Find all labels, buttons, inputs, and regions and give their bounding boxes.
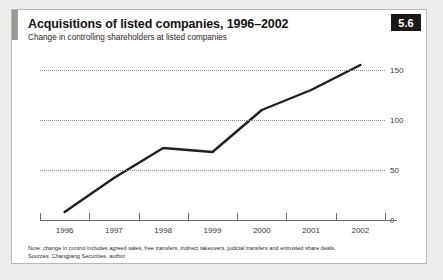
x-tick-1 [89,213,90,220]
x-tick-4 [237,213,238,220]
x-tick-2 [139,213,140,220]
x-tick-label-1996: 1996 [56,226,74,235]
chart-plot-area [40,53,385,220]
y-tick-label-100: 100 [390,116,403,125]
x-tick-5 [286,213,287,220]
figure-card: Acquisitions of listed companies, 1996–2… [11,9,427,264]
x-tick-3 [188,213,189,220]
x-tick-label-1998: 1998 [154,226,172,235]
data-line [65,65,361,212]
figure-number-badge: 5.6 [391,14,421,31]
gridline-100 [40,120,385,121]
x-tick-0 [40,213,41,220]
x-axis-line [40,220,397,221]
x-tick-label-2002: 2002 [351,226,369,235]
line-series-svg [40,53,385,220]
page-title: Acquisitions of listed companies, 1996–2… [28,17,288,31]
title-accent-bar [12,10,18,40]
x-tick-label-1999: 1999 [204,226,222,235]
x-tick-label-2001: 2001 [302,226,320,235]
x-tick-6 [336,213,337,220]
figure-note: Note: change in control includes agreed … [28,244,336,252]
x-tick-label-2000: 2000 [253,226,271,235]
y-tick-label-50: 50 [390,166,399,175]
figure-source: Sources: Changjiang Securities, author [28,252,125,260]
gridline-150 [40,70,385,71]
x-tick-label-1997: 1997 [105,226,123,235]
y-tick-label-150: 150 [390,66,403,75]
x-tick-7 [385,213,386,220]
gridline-50 [40,170,385,171]
figure-subtitle: Change in controlling shareholders at li… [28,33,227,42]
